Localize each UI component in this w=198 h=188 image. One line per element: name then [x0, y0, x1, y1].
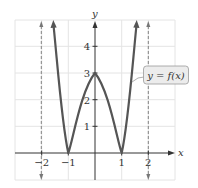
- y-tick-label: 4: [84, 41, 90, 52]
- x-tick-label: −1: [61, 157, 76, 168]
- x-tick-label: −2: [34, 157, 49, 168]
- y-tick-label: 1: [84, 121, 90, 132]
- x-tick-label: 2: [145, 157, 151, 168]
- callout-pointer: [132, 77, 144, 82]
- x-tick-label: 1: [119, 157, 125, 168]
- x-axis-label: x: [178, 147, 184, 158]
- curve-callout-label: y = f(x): [146, 70, 185, 81]
- graph-canvas: −2 −1 1 2 1 2 3 4 x y y = f(x): [0, 0, 198, 188]
- function-graph: −2 −1 1 2 1 2 3 4 x y y = f(x): [0, 0, 198, 188]
- curve-right-arrow-icon: [133, 20, 139, 28]
- y-tick-label: 2: [84, 95, 90, 106]
- x-axis-arrow-icon: [168, 151, 175, 156]
- y-axis-label: y: [91, 8, 98, 19]
- curve-left-arrow-icon: [51, 20, 57, 28]
- y-axis-arrow-icon: [93, 21, 98, 28]
- y-tick-label: 3: [84, 68, 90, 79]
